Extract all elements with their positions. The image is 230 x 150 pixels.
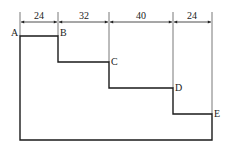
point-label-e: E (214, 108, 220, 119)
point-label-a: A (11, 27, 19, 38)
point-label-b: B (60, 27, 67, 38)
dimension-label-cd: 40 (136, 10, 146, 21)
stepped-profile-outline (20, 36, 212, 140)
dimension-label-ab: 24 (34, 10, 44, 21)
dimension-label-bc: 32 (79, 10, 89, 21)
dimension-label-de: 24 (187, 10, 197, 21)
point-label-d: D (175, 82, 182, 93)
stepped-profile-diagram: 24 32 40 24 A B C D E (0, 0, 230, 150)
point-label-c: C (111, 56, 118, 67)
